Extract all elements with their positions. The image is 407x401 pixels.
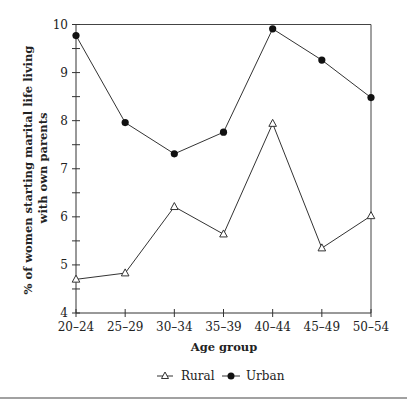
y-tick-label: 4 — [60, 306, 68, 320]
filled-circle-icon — [228, 373, 235, 380]
data-point — [318, 244, 326, 251]
series-rural — [72, 119, 375, 282]
data-point — [367, 212, 375, 219]
data-point — [318, 56, 325, 63]
data-point — [171, 150, 178, 157]
series-layer — [72, 25, 375, 282]
data-point — [220, 129, 227, 136]
data-point — [171, 203, 179, 210]
data-point — [122, 119, 129, 126]
open-triangle-icon — [162, 372, 169, 379]
data-point — [269, 119, 277, 126]
line-chart: 45678910 20–2425–2930–3435–3940–4445–495… — [0, 0, 407, 401]
x-tick-label: 20–24 — [58, 320, 95, 334]
legend-item-rural: Rural — [157, 369, 215, 383]
y-axis-title-line-1: % of women starting marital life living — [21, 46, 35, 295]
y-axis-title: % of women starting marital life living … — [21, 42, 50, 295]
legend-label-urban: Urban — [246, 369, 285, 383]
y-axis-title-line-2: with own parents — [36, 113, 50, 225]
y-tick-label: 6 — [60, 210, 68, 224]
x-tick-label: 35–39 — [205, 320, 242, 334]
data-point — [269, 25, 276, 32]
data-point — [367, 94, 374, 101]
legend-label-rural: Rural — [181, 369, 215, 383]
legend: Rural Urban — [157, 369, 285, 383]
y-tick-label: 5 — [60, 258, 68, 272]
y-tick-label: 10 — [53, 18, 68, 32]
x-axis-title: Age group — [190, 340, 257, 354]
x-tick-label: 30–34 — [156, 320, 193, 334]
x-tick-label: 50–54 — [353, 320, 390, 334]
data-point — [220, 230, 228, 237]
x-tick-label: 45–49 — [304, 320, 341, 334]
x-axis: 20–2425–2930–3435–3940–4445–4950–54 — [58, 309, 390, 334]
y-tick-label: 9 — [60, 66, 68, 80]
series-urban — [72, 25, 374, 157]
y-tick-label: 7 — [60, 162, 68, 176]
plot-frame — [76, 25, 371, 314]
legend-item-urban: Urban — [222, 369, 285, 383]
y-tick-label: 8 — [60, 114, 68, 128]
data-point — [72, 32, 79, 39]
x-tick-label: 40–44 — [254, 320, 291, 334]
x-tick-label: 25–29 — [107, 320, 144, 334]
